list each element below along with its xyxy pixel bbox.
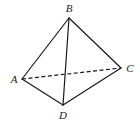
vertex-label-d: D — [58, 109, 67, 121]
vertex-label-c: C — [126, 62, 134, 74]
vertex-label-b: B — [66, 2, 73, 14]
edge-AB — [22, 18, 69, 79]
tetrahedron-diagram: A B C D — [0, 0, 140, 123]
edge-DC — [63, 68, 121, 105]
edge-BC — [69, 18, 121, 68]
vertex-label-a: A — [10, 73, 18, 85]
edge-BD — [63, 18, 69, 105]
edge-AD — [22, 79, 63, 105]
